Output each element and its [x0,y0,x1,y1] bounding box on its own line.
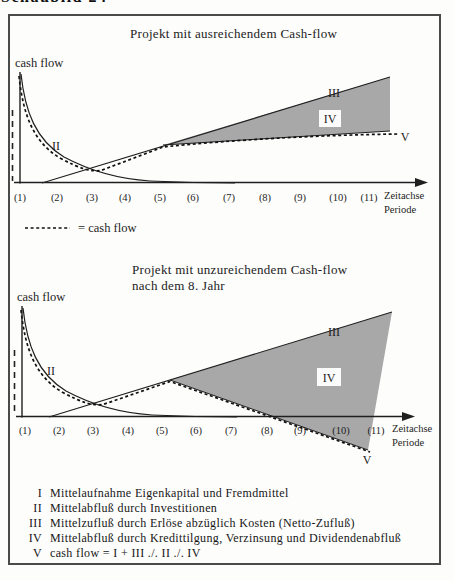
chart1-tick-10: (10) [329,192,347,204]
chart1-x-axis-label: Zeitachse [384,190,425,201]
chart2-tick-3: (3) [87,425,100,437]
chart1-tick-6: (6) [187,192,200,204]
chart2-label-II: II [47,364,55,378]
chart2-label-IV: IV [323,371,336,385]
chart2-tick-5: (5) [156,425,169,437]
chart2-tick-8: (8) [261,425,274,437]
legend-text-II: Mittelabfluß durch Investitionen [50,501,430,516]
chart1-plot: (1) (2) (3) (4) (5) (6) (7) (8) (9) (10)… [8,44,441,250]
legend-num-IV: IV [18,531,42,546]
legend-num-I: I [18,486,42,501]
scanned-figure-page: Schaubild 24 Projekt mit ausreichendem C… [0,0,454,580]
chart1-title: Projekt mit ausreichendem Cash-flow [130,26,337,42]
chart1-tick-3: (3) [86,192,99,204]
chart2-tick-7: (7) [225,425,238,437]
legend-row-II: II Mittelabfluß durch Investitionen [18,501,430,516]
cashflow-legend-label: = cash flow [78,221,136,235]
legend-text-III: Mittelzufluß durch Erlöse abzüglich Kost… [50,516,430,531]
legend-row-V: V cash flow = I + III ./. II ./. IV [18,546,430,561]
legend-row-I: I Mittelaufnahme Eigenkapital und Fremdm… [18,486,430,501]
legend-text-IV: Mittelabfluß durch Kredittilgung, Verzin… [50,531,430,546]
chart2-tick-10: (10) [332,425,350,437]
chart2-shaded-region-IV [170,312,392,450]
legend-num-V: V [18,546,42,561]
chart1-label-II: II [52,139,60,153]
chart1-tick-4: (4) [119,192,132,204]
chart2-title-line1: Projekt mit unzureichendem Cash-flow [132,262,348,278]
chart1-tick-1: (1) [14,192,27,204]
chart1-tick-2: (2) [51,192,64,204]
chart1-y-axis-label: cash flow [15,56,63,70]
chart1-tick-5: (5) [154,192,167,204]
chart2-tick-1: (1) [19,425,32,437]
chart1-label-V: V [401,130,410,144]
chart2-label-III: III [328,325,340,339]
chart1-tick-8: (8) [259,192,272,204]
chart1-tick-11: (11) [360,192,378,204]
chart2-x-axis-arrowhead-icon [402,412,415,421]
chart2-plot: (1) (2) (3) (4) (5) (6) (7) (8) (9) (10)… [8,290,441,472]
chart2-x-axis-label2: Periode [392,437,424,448]
chart1-tick-7: (7) [223,192,236,204]
chart1-x-axis-label2: Periode [384,204,416,215]
chart1-curve-II [21,74,235,183]
chart2-x-axis-label: Zeitachse [392,423,433,434]
legend-text-V: cash flow = I + III ./. II ./. IV [50,546,430,561]
chart2-tick-2: (2) [53,425,66,437]
legend-row-IV: IV Mittelabfluß durch Kredittilgung, Ver… [18,531,430,546]
chart2-label-V: V [363,453,372,467]
figure-heading: Schaubild 24 [1,0,107,6]
chart1-x-axis-arrowhead-icon [415,178,428,187]
legend-num-III: III [18,516,42,531]
legend-num-II: II [18,501,42,516]
chart1-label-III: III [328,86,340,100]
chart2-curve-II [23,308,237,417]
chart2-y-axis-label: cash flow [17,290,65,304]
chart1-label-IV: IV [324,112,337,126]
legend-text-I: Mittelaufnahme Eigenkapital und Fremdmit… [50,486,430,501]
chart2-tick-6: (6) [190,425,203,437]
chart2-tick-11: (11) [367,425,385,437]
chart1-tick-9: (9) [294,192,307,204]
legend-row-III: III Mittelzufluß durch Erlöse abzüglich … [18,516,430,531]
figure-legend: I Mittelaufnahme Eigenkapital und Fremdm… [18,486,430,561]
chart2-tick-4: (4) [122,425,135,437]
